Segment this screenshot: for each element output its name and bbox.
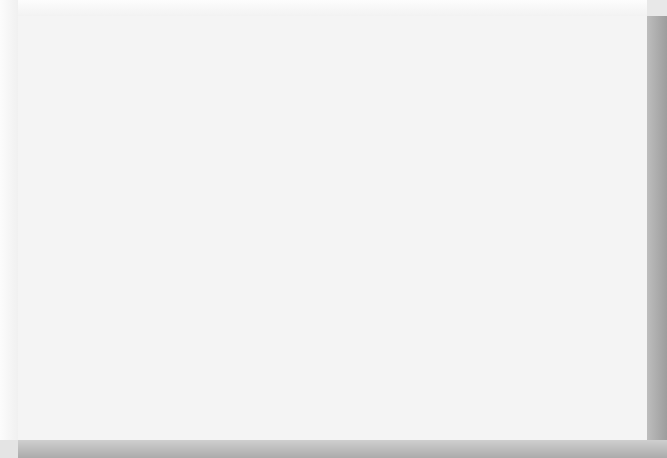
- frame-bevel-left: [0, 0, 18, 458]
- frame-bevel-bottom: [0, 440, 667, 458]
- frame-bevel-top: [0, 0, 667, 16]
- org-chart-canvas: [18, 16, 647, 440]
- frame-bevel-right: [647, 0, 667, 458]
- frame-corner-bottom-left: [0, 440, 18, 458]
- frame-corner-top-right: [647, 0, 667, 16]
- chart-frame: [0, 0, 667, 458]
